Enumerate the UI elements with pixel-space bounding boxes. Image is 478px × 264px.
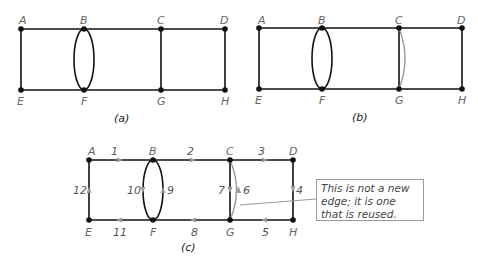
figure-c-vertices (86, 157, 296, 223)
vertex-label-b-B: B (318, 14, 326, 27)
edge-number-2: 2 (187, 145, 194, 158)
vertex-label-c-A: A (87, 145, 96, 158)
edge-arrows (87, 158, 296, 223)
vertex-label-c-H: H (289, 226, 297, 239)
vertex-label-b-G: G (395, 94, 404, 107)
edge-number-7: 7 (218, 184, 225, 197)
vertex-label-b-H: H (458, 94, 466, 107)
vertex-label-c-G: G (226, 226, 235, 239)
caption-b: (b) (352, 111, 368, 124)
vertex-label-a-C: C (157, 14, 165, 27)
vertex-label-c-F: F (150, 226, 157, 239)
reused-edge-b (399, 28, 405, 89)
edge-number-1: 1 (111, 145, 118, 158)
vertex-label-c-D: D (289, 145, 297, 158)
vertex-label-a-B: B (80, 14, 88, 27)
vertex-label-a-D: D (220, 14, 228, 27)
edge-number-12: 12 (73, 184, 87, 197)
vertex-label-c-E: E (85, 226, 92, 239)
vertex-label-b-C: C (395, 14, 403, 27)
edge-number-11: 11 (113, 226, 127, 239)
edge-number-10: 10 (127, 184, 141, 197)
edge-number-5: 5 (262, 226, 269, 239)
vertex-label-c-C: C (226, 145, 234, 158)
note-pointer-line (240, 199, 316, 205)
caption-a: (a) (114, 112, 129, 125)
reused-edge-note: This is not a new edge; it is one that i… (316, 179, 424, 221)
vertex-label-a-G: G (157, 95, 166, 108)
edge-number-6: 6 (243, 184, 250, 197)
vertex-label-b-A: A (257, 14, 266, 27)
graph-diagrams: A B C D E F G H (a) A B C D E F G H (b) (0, 0, 478, 264)
vertex-label-b-F: F (319, 94, 326, 107)
figure-b-vertices (256, 25, 465, 92)
figure-a (21, 29, 225, 90)
figure-b (259, 28, 462, 89)
figure-a-vertices (18, 26, 228, 93)
edge-number-9: 9 (167, 184, 174, 197)
vertex-label-a-E: E (17, 95, 24, 108)
edge-number-4: 4 (296, 184, 303, 197)
edge-number-3: 3 (258, 145, 265, 158)
figure-c (89, 160, 293, 220)
vertex-label-a-F: F (81, 95, 88, 108)
vertex-label-c-B: B (149, 145, 157, 158)
caption-c: (c) (181, 241, 196, 254)
vertex-label-a-H: H (221, 95, 229, 108)
edge-number-8: 8 (191, 226, 198, 239)
vertex-label-b-E: E (255, 94, 262, 107)
vertex-label-b-D: D (457, 14, 465, 27)
vertex-label-a-A: A (18, 14, 27, 27)
